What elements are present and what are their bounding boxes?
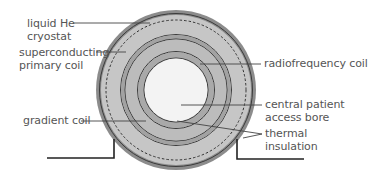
leader-thermal-b: [243, 134, 262, 138]
label-liquid-he-line2: cryostat: [27, 30, 75, 43]
label-radiofrequency: radiofrequency coil: [264, 57, 368, 70]
label-superconducting-line2: primary coil: [19, 59, 109, 72]
left-stand: [47, 139, 114, 158]
label-bore: central patient access bore: [265, 98, 345, 124]
label-radiofrequency-line1: radiofrequency coil: [264, 57, 368, 70]
mri-cross-section-diagram: liquid He cryostat superconducting prima…: [0, 0, 372, 178]
label-superconducting: superconducting primary coil: [19, 46, 109, 72]
label-bore-line1: central patient: [265, 98, 345, 111]
label-superconducting-line1: superconducting: [19, 46, 109, 59]
label-gradient-line1: gradient coil: [23, 114, 90, 127]
label-thermal-line2: insulation: [265, 140, 318, 153]
label-liquid-he: liquid He cryostat: [27, 17, 75, 43]
patient-bore: [145, 59, 208, 122]
label-thermal: thermal insulation: [265, 127, 318, 153]
label-gradient: gradient coil: [23, 114, 90, 127]
label-liquid-he-line1: liquid He: [27, 17, 75, 30]
label-bore-line2: access bore: [265, 111, 345, 124]
label-thermal-line1: thermal: [265, 127, 318, 140]
